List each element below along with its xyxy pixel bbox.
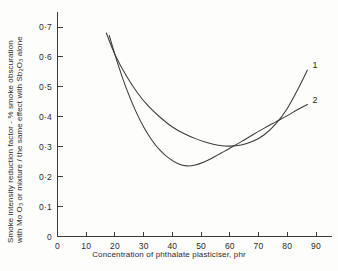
curve-1 <box>106 33 307 146</box>
axis-ticks <box>58 27 317 237</box>
y-axis-title-sub-2: 2 <box>18 68 24 71</box>
y-axis-title-sub-1: 3 <box>18 203 24 206</box>
axes-lines <box>58 12 333 236</box>
x-tick-label: 80 <box>282 241 292 251</box>
y-axis-title-part-1: with Mo O <box>15 206 24 243</box>
x-tick-label: 90 <box>311 241 321 251</box>
x-tick-label: 70 <box>254 241 264 251</box>
curve-label-1: 1 <box>312 60 317 70</box>
figure-container: 00·10·20·30·40·50·60·7 01020304050607080… <box>0 0 338 271</box>
data-curves <box>106 33 307 166</box>
x-tick-label: 30 <box>139 241 149 251</box>
x-tick-label: 40 <box>167 241 177 251</box>
y-axis-title-part-3: O <box>15 62 24 68</box>
y-axis-title: Smoke intensity reduction factor - % smo… <box>8 0 38 240</box>
x-tick-label: 60 <box>225 241 235 251</box>
x-tick-label: 10 <box>81 241 91 251</box>
curve-2 <box>109 35 307 166</box>
chart-plot-area <box>0 0 338 271</box>
x-tick-label: 20 <box>110 241 120 251</box>
page-bleedthrough-artifact <box>150 261 338 271</box>
y-axis-title-part-2: or mixture / the same effect with Sb <box>15 72 24 203</box>
x-tick-label: 0 <box>55 241 60 251</box>
y-axis-title-sub-3: 3 <box>18 59 24 62</box>
x-axis-title: Concentration of phthalate plasticiser, … <box>0 250 338 259</box>
y-axis-title-part-4: alone <box>15 36 24 58</box>
y-axis-title-line-2: with Mo O3 or mixture / the same effect … <box>15 11 26 243</box>
x-tick-label: 50 <box>196 241 206 251</box>
curve-label-2: 2 <box>312 95 317 105</box>
